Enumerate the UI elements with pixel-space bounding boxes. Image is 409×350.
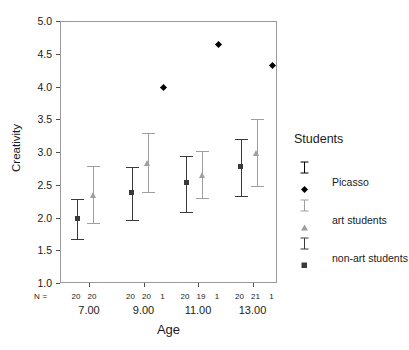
legend-diamond-icon (301, 179, 308, 186)
y-tick-label: 4.0 (22, 82, 52, 92)
error-bar-cap (235, 196, 248, 197)
legend-triangle-icon (301, 217, 308, 224)
y-tick-label: 3.5 (22, 114, 52, 124)
marker-square-non-art (238, 164, 243, 169)
y-tick-label: 4.5 (22, 49, 52, 59)
plot-area (60, 21, 277, 283)
y-tick-label: 2.0 (22, 213, 52, 223)
error-bar-cap (196, 198, 209, 199)
error-bar-cap (180, 156, 193, 157)
y-tick-label: 1.0 (22, 278, 52, 288)
x-tick-label: 11.00 (168, 304, 228, 316)
error-bar-cap (71, 239, 84, 240)
legend-title: Students (294, 132, 407, 146)
x-tick-mark (144, 283, 145, 287)
error-bar-cap (142, 192, 155, 193)
marker-square-non-art (184, 180, 189, 185)
x-tick-mark (198, 283, 199, 287)
error-bar-cap (126, 220, 139, 221)
x-tick-mark (89, 283, 90, 287)
n-count-value: 1 (261, 292, 283, 301)
error-bar-cap (87, 166, 100, 167)
error-bar-cap (87, 223, 100, 224)
legend: Students Picassoart studentsnon-art stud… (292, 132, 407, 274)
legend-item: art students (292, 198, 407, 236)
legend-error-bar-icon (300, 160, 309, 173)
legend-item: non-art students (292, 236, 407, 274)
marker-diamond-picasso (160, 84, 167, 91)
error-bar-cap (196, 151, 209, 152)
n-count-value: 1 (206, 292, 228, 301)
error-bar-cap (235, 139, 248, 140)
error-bar-cap (180, 212, 193, 213)
marker-diamond-picasso (269, 62, 276, 69)
legend-label: art students (332, 214, 387, 226)
error-bar-cap (251, 119, 264, 120)
marker-square-non-art (129, 190, 134, 195)
y-tick-label: 2.5 (22, 180, 52, 190)
y-axis-title: Creativity (10, 88, 22, 208)
error-bar-cap (142, 133, 155, 134)
marker-diamond-picasso (214, 41, 221, 48)
n-row-label: N = (34, 292, 48, 301)
marker-triangle-art (144, 160, 150, 166)
error-bar-cap (126, 167, 139, 168)
n-count-value: 1 (152, 292, 174, 301)
marker-triangle-art (199, 172, 205, 178)
y-tick-label: 5.0 (22, 16, 52, 26)
legend-square-icon (301, 255, 308, 262)
legend-label: Picasso (332, 176, 369, 188)
error-bar-chart: Creativity 1.01.52.02.53.03.54.04.55.0 7… (0, 0, 409, 350)
x-tick-label: 13.00 (223, 304, 283, 316)
marker-triangle-art (253, 150, 259, 156)
legend-label: non-art students (332, 252, 408, 264)
n-count-value: 20 (81, 292, 103, 301)
x-tick-mark (253, 283, 254, 287)
legend-item: Picasso (292, 160, 407, 198)
error-bar-cap (71, 199, 84, 200)
x-tick-label: 7.00 (59, 304, 119, 316)
x-tick-label: 9.00 (114, 304, 174, 316)
error-bar-cap (251, 186, 264, 187)
marker-triangle-art (90, 192, 96, 198)
legend-error-bar-icon (300, 236, 309, 249)
legend-items: Picassoart studentsnon-art students (292, 160, 407, 274)
y-tick-mark (56, 283, 60, 284)
legend-error-bar-icon (300, 198, 309, 211)
y-tick-label: 1.5 (22, 245, 52, 255)
marker-square-non-art (75, 216, 80, 221)
x-axis-title: Age (60, 322, 277, 337)
y-tick-label: 3.0 (22, 147, 52, 157)
